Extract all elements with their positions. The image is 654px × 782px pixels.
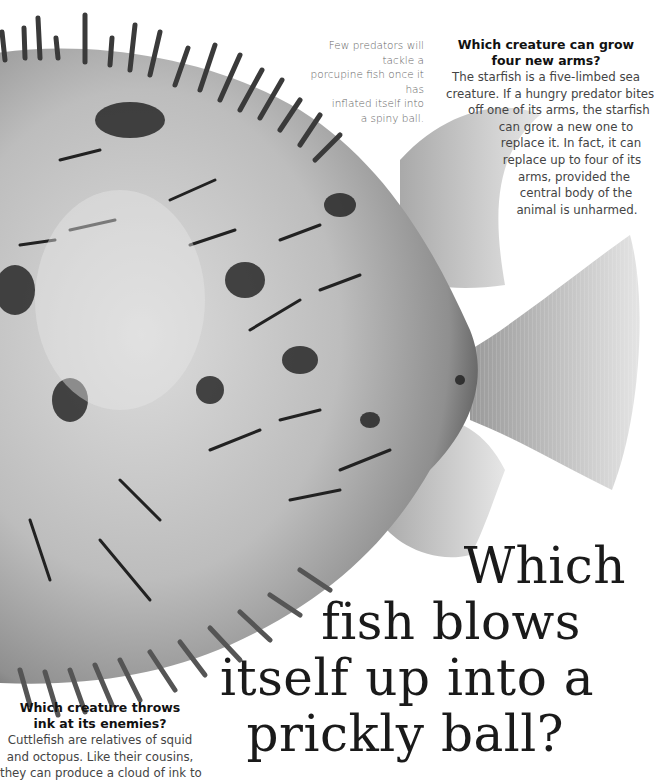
starfish-question-block: Which creature can grow four new arms? T…: [446, 37, 646, 218]
fish-eye: [35, 190, 205, 410]
fish-caption: Few predators will tackle a porcupine fi…: [300, 38, 424, 125]
cuttlefish-question-title: Which creature throws ink at its enemies…: [0, 700, 200, 732]
cuttlefish-question-block: Which creature throws ink at its enemies…: [0, 700, 200, 782]
page-headline: Which fish blows itself up into a prickl…: [206, 538, 626, 762]
starfish-question-title: Which creature can grow four new arms?: [446, 37, 646, 69]
starfish-answer-text: The starfish is a five-limbed sea creatu…: [446, 69, 646, 218]
cuttlefish-answer-text: Cuttlefish are relatives of squid and oc…: [0, 732, 200, 782]
